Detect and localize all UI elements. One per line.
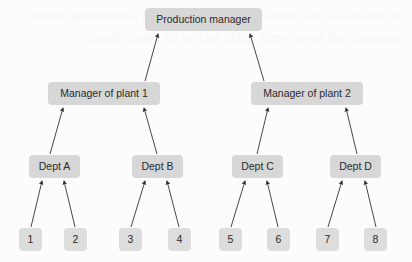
edge-unit2-to-depta: [64, 181, 75, 227]
org-chart-diagram: the structure of the organization and th…: [0, 0, 412, 262]
node-unit-8[interactable]: 8: [364, 228, 387, 251]
edge-unit8-to-deptd: [365, 181, 376, 227]
page-bleed-through-text: the structure of the organization and th…: [0, 0, 412, 262]
edge-plant2-to-production: [250, 34, 264, 81]
node-manager-of-plant-2[interactable]: Manager of plant 2: [251, 82, 363, 105]
node-label: 1: [28, 234, 34, 245]
node-unit-1[interactable]: 1: [19, 228, 42, 251]
node-label: 7: [325, 234, 331, 245]
edge-layer: [0, 0, 412, 262]
node-label: Production manager: [156, 14, 251, 25]
edge-deptd-to-plant2: [346, 108, 357, 154]
node-label: 3: [128, 234, 134, 245]
node-dept-b[interactable]: Dept B: [132, 155, 183, 178]
edge-unit1-to-depta: [31, 181, 42, 227]
node-label: 5: [228, 234, 234, 245]
node-dept-d[interactable]: Dept D: [330, 155, 381, 178]
edge-plant1-to-production: [145, 34, 158, 81]
edge-unit5-to-deptc: [231, 181, 245, 227]
edge-unit7-to-deptd: [328, 181, 342, 227]
node-label: 8: [373, 234, 379, 245]
node-label: Manager of plant 2: [263, 88, 351, 99]
node-unit-7[interactable]: 7: [316, 228, 339, 251]
node-label: 2: [73, 234, 79, 245]
edge-deptc-to-plant2: [257, 108, 268, 154]
node-unit-6[interactable]: 6: [267, 228, 290, 251]
edge-unit4-to-deptb: [167, 181, 179, 227]
node-unit-5[interactable]: 5: [219, 228, 242, 251]
edge-unit3-to-deptb: [131, 181, 145, 227]
node-label: Dept A: [39, 161, 71, 172]
edge-depta-to-plant1: [50, 108, 63, 154]
node-label: Dept D: [339, 161, 372, 172]
node-dept-c[interactable]: Dept C: [232, 155, 283, 178]
node-label: Manager of plant 1: [60, 88, 148, 99]
node-label: 6: [276, 234, 282, 245]
node-dept-a[interactable]: Dept A: [29, 155, 80, 178]
node-label: Dept B: [141, 161, 173, 172]
edge-deptb-to-plant1: [144, 108, 157, 154]
edges-group: [31, 34, 376, 227]
node-manager-of-plant-1[interactable]: Manager of plant 1: [48, 82, 160, 105]
node-unit-3[interactable]: 3: [119, 228, 142, 251]
edge-unit6-to-deptc: [267, 181, 278, 227]
node-label: Dept C: [241, 161, 274, 172]
node-unit-4[interactable]: 4: [168, 228, 191, 251]
node-unit-2[interactable]: 2: [64, 228, 87, 251]
node-production-manager[interactable]: Production manager: [145, 8, 262, 31]
node-label: 4: [177, 234, 183, 245]
